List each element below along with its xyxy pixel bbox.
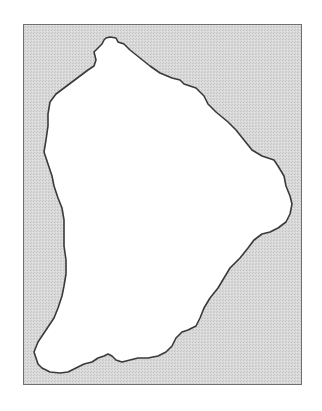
- outline-map: [23, 24, 302, 385]
- map-frame: [23, 24, 302, 385]
